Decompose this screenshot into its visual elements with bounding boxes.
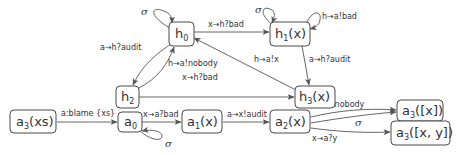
svg-text:a1(x): a1(x) xyxy=(187,114,218,131)
node-h1: h1(x) xyxy=(270,22,310,46)
svg-text:a3([x]): a3([x]) xyxy=(402,103,443,120)
node-a0: a0 xyxy=(118,112,142,132)
svg-text:h→a!bad: h→a!bad xyxy=(322,12,357,21)
svg-text:a:blame {xs}: a:blame {xs} xyxy=(61,109,115,118)
edge-h0-h2: a→h?audit xyxy=(100,43,171,85)
node-h3: h3(x) xyxy=(295,86,335,108)
edge-a0-a1: x→a?bad xyxy=(142,110,181,122)
svg-text:a2(x): a2(x) xyxy=(275,114,306,131)
svg-text:x→h?bad: x→h?bad xyxy=(208,20,244,29)
node-h2: h2 xyxy=(116,86,139,108)
svg-text:σ: σ xyxy=(255,4,263,15)
edge-h1-h3: a→h?audit xyxy=(302,46,350,85)
state-diagram: σ x→h?bad σ h→a!bad a→h?audit h→a!nobody… xyxy=(0,0,461,155)
svg-text:a3(xs): a3(xs) xyxy=(16,114,54,131)
edge-a3xs-a0: a:blame {xs} xyxy=(57,109,117,122)
svg-text:x→a?y: x→a?y xyxy=(312,134,338,143)
edge-h1-self-sigma: σ xyxy=(255,4,274,25)
node-a3-x: a3([x]) xyxy=(397,100,443,121)
edge-h0-self-sigma: σ xyxy=(141,6,172,28)
svg-text:h→a!nobody: h→a!nobody xyxy=(168,59,218,68)
svg-text:x→a?bad: x→a?bad xyxy=(143,110,179,119)
edge-a2-a3xy: x→a?y xyxy=(311,128,390,143)
node-a1: a1(x) xyxy=(182,110,222,133)
svg-text:a→x!audit: a→x!audit xyxy=(227,110,267,119)
svg-text:h→a!x: h→a!x xyxy=(254,55,279,64)
node-h0: h0 xyxy=(169,22,194,46)
svg-text:h1(x): h1(x) xyxy=(275,26,306,43)
svg-text:σ: σ xyxy=(141,6,149,17)
edge-h1-self-bad: h→a!bad xyxy=(306,12,357,29)
svg-text:a→h?audit: a→h?audit xyxy=(100,43,141,52)
edge-h0-h1: x→h?bad xyxy=(194,20,269,32)
svg-text:h3(x): h3(x) xyxy=(299,89,330,106)
node-a3-xy: a3([x, y]) xyxy=(391,121,453,145)
edge-a0-self-sigma: σ xyxy=(140,130,173,149)
edge-h2-h3: x→h?bad xyxy=(139,73,294,97)
svg-text:σ: σ xyxy=(355,117,363,128)
edge-a1-a2: a→x!audit xyxy=(223,110,269,122)
svg-text:σ: σ xyxy=(165,138,173,149)
node-a3-xs: a3(xs) xyxy=(10,110,56,133)
node-a2: a2(x) xyxy=(270,110,310,133)
svg-text:x→h?bad: x→h?bad xyxy=(182,73,218,82)
svg-text:a→h?audit: a→h?audit xyxy=(309,55,350,64)
